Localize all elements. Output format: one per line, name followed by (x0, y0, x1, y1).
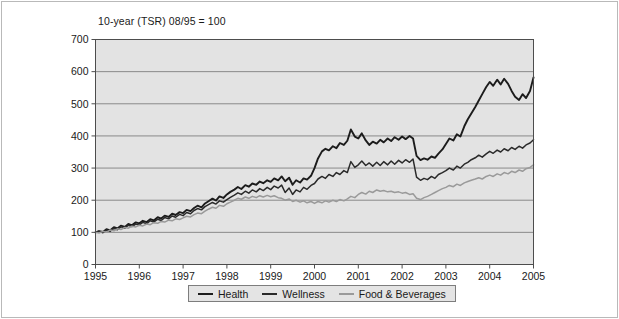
svg-text:0: 0 (83, 258, 89, 270)
svg-text:2005: 2005 (522, 270, 546, 282)
svg-text:700: 700 (71, 33, 89, 45)
svg-text:1999: 1999 (259, 270, 283, 282)
svg-text:1996: 1996 (128, 270, 152, 282)
chart-legend: HealthWellnessFood & Beverages (188, 285, 456, 302)
x-axis-tick-labels: 1995199619971998199920002001200220032004… (84, 265, 546, 282)
svg-text:200: 200 (71, 194, 89, 206)
svg-text:100: 100 (71, 226, 89, 238)
svg-text:2002: 2002 (390, 270, 414, 282)
legend-item[interactable]: Food & Beverages (339, 288, 446, 300)
svg-text:2001: 2001 (347, 270, 371, 282)
legend-line-swatch (198, 293, 213, 295)
chart-figure: 10-year (TSR) 08/95 = 100 01002003004005… (1, 1, 618, 318)
svg-text:2004: 2004 (478, 270, 502, 282)
legend-label: Food & Beverages (359, 288, 446, 300)
legend-label: Health (218, 288, 248, 300)
legend-item[interactable]: Health (198, 288, 248, 300)
svg-text:300: 300 (71, 162, 89, 174)
svg-text:1998: 1998 (215, 270, 239, 282)
plot-background (96, 40, 534, 265)
legend-line-swatch (262, 293, 277, 295)
svg-text:400: 400 (71, 130, 89, 142)
svg-text:600: 600 (71, 65, 89, 77)
svg-text:2003: 2003 (434, 270, 458, 282)
line-chart-plot: 0100200300400500600700 19951996199719981… (2, 2, 619, 319)
svg-text:2000: 2000 (303, 270, 327, 282)
legend-line-swatch (339, 293, 354, 295)
legend-label: Wellness (282, 288, 324, 300)
svg-text:1997: 1997 (171, 270, 195, 282)
y-axis-tick-labels: 0100200300400500600700 (71, 33, 96, 270)
legend-item[interactable]: Wellness (262, 288, 324, 300)
svg-text:500: 500 (71, 98, 89, 110)
svg-text:1995: 1995 (84, 270, 108, 282)
